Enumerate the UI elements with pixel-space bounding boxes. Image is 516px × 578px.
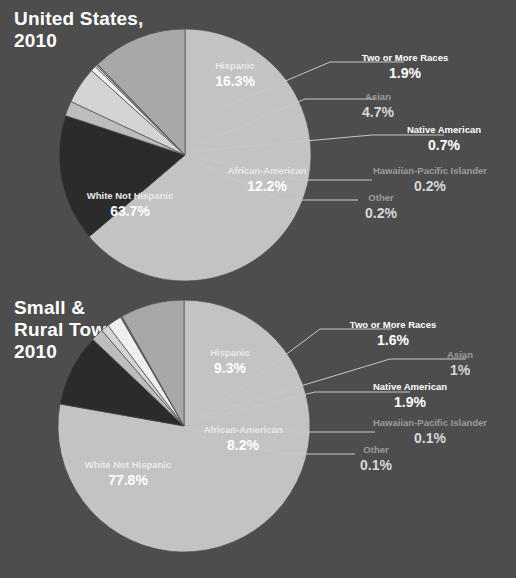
slice-label-native-american: Native American 0.7% [389,124,499,153]
slice-label-african-american: African-American 12.2% [207,165,327,194]
chart-panel-united-states: United States, 2010 White Not Hispanic 6… [0,0,516,289]
slice-label-value: 8.2% [183,437,303,453]
slice-label-hawaiian-pacific-islander: Hawaiian-Pacific Islander 0.1% [355,417,505,446]
slice-label-value: 0.2% [341,205,421,221]
slice-label-native-american: Native American 1.9% [355,381,465,410]
slice-label-name: White Not Hispanic [63,459,193,471]
slice-label-name: African-American [207,165,327,177]
slice-label-name: White Not Hispanic [65,190,195,202]
slice-label-value: 4.7% [335,104,421,120]
slice-label-asian: Asian 1% [420,349,500,378]
slice-label-name: Asian [420,349,500,361]
slice-label-name: Hawaiian-Pacific Islander [355,165,505,177]
slice-label-african-american: African-American 8.2% [183,424,303,453]
slice-label-hawaiian-pacific-islander: Hawaiian-Pacific Islander 0.2% [355,165,505,194]
slice-label-name: African-American [183,424,303,436]
slice-label-value: 1.6% [338,332,448,348]
slice-label-value: 63.7% [65,203,195,219]
slice-label-name: Hispanic [190,60,280,72]
slice-label-name: Native American [355,381,465,393]
slice-label-value: 1% [420,362,500,378]
slice-label-value: 1.9% [350,65,460,81]
slice-label-name: Asian [335,91,421,103]
slice-label-hispanic: Hispanic 9.3% [185,347,275,376]
slice-label-other: Other 0.2% [341,192,421,221]
slice-label-name: Two or More Races [350,52,460,64]
slice-label-value: 0.7% [389,137,499,153]
chart-panel-small-rural-town: Small & Rural Town, 2010 White Not Hispa… [0,289,516,578]
slice-label-white-not-hispanic: White Not Hispanic 63.7% [65,190,195,219]
slice-label-value: 77.8% [63,472,193,488]
slice-label-name: Two or More Races [338,319,448,331]
slice-label-hispanic: Hispanic 16.3% [190,60,280,89]
slice-label-value: 12.2% [207,178,327,194]
slice-label-value: 1.9% [355,394,465,410]
slice-label-value: 16.3% [190,73,280,89]
slice-label-asian: Asian 4.7% [335,91,421,120]
slice-label-value: 9.3% [185,360,275,376]
slice-label-other: Other 0.1% [336,444,416,473]
slice-label-two-or-more-races: Two or More Races 1.9% [350,52,460,81]
slice-label-name: Hawaiian-Pacific Islander [355,417,505,429]
slice-label-white-not-hispanic: White Not Hispanic 77.8% [63,459,193,488]
slice-label-value: 0.1% [336,457,416,473]
slice-label-two-or-more-races: Two or More Races 1.6% [338,319,448,348]
slice-label-name: Native American [389,124,499,136]
slice-label-name: Hispanic [185,347,275,359]
slice-label-name: Other [336,444,416,456]
slice-label-name: Other [341,192,421,204]
